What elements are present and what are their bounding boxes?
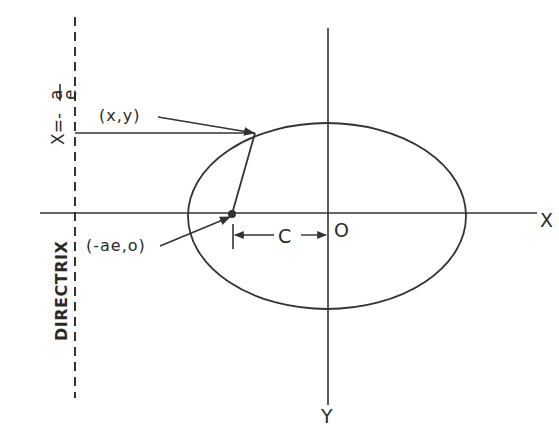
directrix-label: DIRECTRIX [52,241,71,341]
origin-label: O [334,219,349,241]
focus-leader-line [160,217,230,246]
c-distance-label: C [278,225,291,247]
y-axis-label: Y [321,405,333,427]
focus-label: (-ae,o) [86,236,146,255]
directrix-equation-prefix: X=- [48,113,68,145]
directrix-equation-denominator: e [60,90,80,100]
point-leader-line [158,117,254,133]
x-axis-label: X [540,209,553,231]
ellipse-diagram [0,0,559,437]
point-label: (x,y) [99,106,141,125]
